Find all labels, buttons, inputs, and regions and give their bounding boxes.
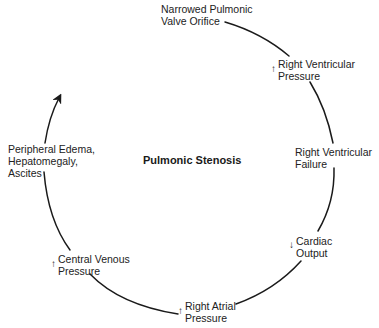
node-label-line: Output bbox=[296, 247, 332, 259]
node-cardiac-output: ↓ Cardiac Output bbox=[296, 235, 332, 259]
decrease-arrow-icon: ↓ bbox=[289, 239, 294, 251]
node-label-line: Pressure bbox=[58, 265, 130, 277]
arc-valve-to-rv-pressure bbox=[225, 22, 289, 56]
arc-ra-pressure-to-cvp bbox=[90, 274, 178, 314]
node-label-line: Central Venous bbox=[58, 253, 130, 265]
node-central-venous-pressure: ↑ Central Venous Pressure bbox=[58, 253, 130, 277]
node-label-line: Failure bbox=[295, 158, 372, 170]
node-label-line: Hepatomegaly, bbox=[8, 155, 95, 167]
arc-rv-pressure-to-rv-failure bbox=[310, 82, 333, 143]
diagram-title: Pulmonic Stenosis bbox=[143, 154, 241, 167]
node-label-line: Right Ventricular bbox=[278, 58, 355, 70]
arc-cvp-to-edema bbox=[44, 172, 70, 250]
node-right-atrial-pressure: ↑ Right Atrial Pressure bbox=[185, 300, 236, 324]
node-right-ventricular-failure: Right Ventricular Failure bbox=[295, 146, 372, 170]
increase-arrow-icon: ↑ bbox=[51, 258, 56, 270]
node-label-line: Cardiac bbox=[296, 235, 332, 247]
node-label-line: Ascites bbox=[8, 167, 95, 179]
pulmonic-stenosis-cycle-diagram: Pulmonic Stenosis Narrowed Pulmonic Valv… bbox=[0, 0, 379, 328]
node-label-line: Right Atrial bbox=[185, 300, 236, 312]
node-right-ventricular-pressure: ↑ Right Ventricular Pressure bbox=[278, 58, 355, 82]
node-label-line: Pressure bbox=[185, 312, 236, 324]
node-peripheral-edema-hepatomegaly-ascites: Peripheral Edema, Hepatomegaly, Ascites bbox=[8, 143, 95, 179]
arc-rv-failure-to-cardiac-output bbox=[318, 168, 334, 231]
node-label-line: Right Ventricular bbox=[295, 146, 372, 158]
increase-arrow-icon: ↑ bbox=[178, 305, 183, 317]
node-narrowed-valve-orifice: Narrowed Pulmonic Valve Orifice bbox=[161, 3, 253, 27]
node-label-line: Valve Orifice bbox=[161, 15, 253, 27]
increase-arrow-icon: ↑ bbox=[271, 63, 276, 75]
arc-cardiac-output-to-ra-pressure bbox=[236, 261, 301, 304]
node-label-line: Pressure bbox=[278, 70, 355, 82]
node-label-line: Peripheral Edema, bbox=[8, 143, 95, 155]
arc-edema-arrow bbox=[45, 98, 59, 143]
node-label-line: Narrowed Pulmonic bbox=[161, 3, 253, 15]
